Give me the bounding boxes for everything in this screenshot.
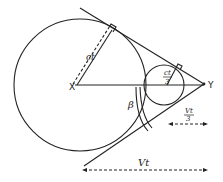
- label-x: X: [69, 82, 75, 92]
- label-beta: β: [127, 99, 134, 110]
- arrowhead-small-left: [168, 122, 173, 126]
- point-y-dot: [203, 83, 206, 86]
- label-small-radius-den: 3: [165, 78, 170, 86]
- apollonius-diagram: X Y ct ct 3 β Vt 3 Vt: [0, 0, 223, 182]
- label-y: Y: [207, 80, 214, 90]
- upper-tangent-line: [80, 8, 204, 84]
- arrowhead-small-right: [203, 122, 208, 126]
- arrowhead-big-right: [203, 168, 208, 172]
- label-small-dist-num: Vt: [185, 107, 193, 115]
- label-big-radius: ct: [86, 52, 95, 62]
- label-small-dist-den: 3: [186, 115, 191, 123]
- label-big-dist: Vt: [138, 157, 150, 168]
- arrowhead-big-left: [82, 168, 87, 172]
- label-small-radius-num: ct: [164, 69, 171, 77]
